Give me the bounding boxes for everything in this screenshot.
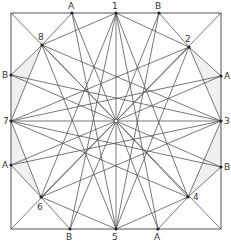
point-marker-B-bottom: [68, 227, 71, 230]
geometric-diagram: [0, 0, 231, 244]
point-marker-A-right: [219, 74, 222, 77]
line-2-7: [11, 47, 189, 121]
point-marker-A-bottom: [156, 227, 159, 230]
point-label-1: 1: [112, 2, 118, 11]
point-marker-4: [186, 195, 189, 198]
point-label-B-top: B: [155, 2, 161, 11]
point-label-8: 8: [38, 33, 44, 42]
center-point: [114, 119, 118, 123]
point-marker-5: [114, 227, 117, 230]
point-label-B-right: B: [224, 163, 230, 172]
point-marker-6: [39, 195, 42, 198]
point-label-A-bottom: A: [154, 233, 160, 242]
point-marker-B-left: [9, 73, 12, 76]
point-label-A-top: A: [68, 2, 74, 11]
point-marker-8: [40, 43, 43, 46]
point-label-2: 2: [185, 35, 191, 44]
point-marker-1: [114, 11, 117, 14]
point-label-A-left: A: [2, 161, 8, 170]
line-4-A-bottom: [158, 197, 188, 229]
point-label-6: 6: [37, 203, 43, 212]
point-label-3: 3: [224, 117, 230, 126]
point-label-B-bottom: B: [66, 233, 72, 242]
point-marker-7: [9, 119, 12, 122]
line-6-B-bottom: [41, 197, 70, 229]
point-marker-B-right: [219, 165, 222, 168]
point-label-7: 7: [3, 117, 9, 126]
line-5-8: [42, 45, 116, 229]
point-marker-B-top: [157, 11, 160, 14]
point-label-B-left: B: [2, 71, 8, 80]
point-marker-2: [187, 45, 190, 48]
point-marker-A-left: [9, 163, 12, 166]
point-marker-A-top: [70, 11, 73, 14]
point-label-4: 4: [193, 193, 199, 202]
point-marker-3: [219, 119, 222, 122]
line-8-A-top: [42, 13, 72, 45]
point-label-A-right: A: [224, 72, 230, 81]
line-4-7: [11, 121, 188, 197]
line-1-4: [116, 13, 188, 197]
point-label-5: 5: [112, 233, 118, 242]
